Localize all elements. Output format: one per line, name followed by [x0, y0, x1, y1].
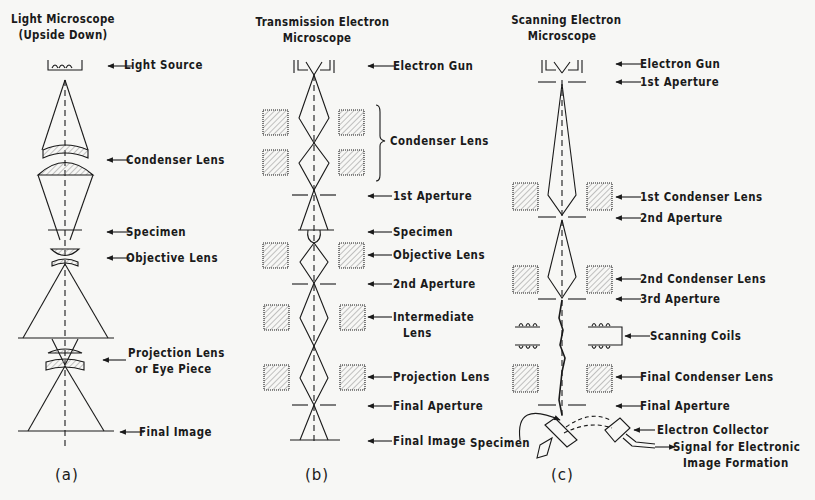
subtitle-upside-down: (Upside Down): [10, 28, 117, 42]
label-objective-lens-b: Objective Lens: [393, 248, 485, 262]
label-specimen-b: Specimen: [393, 225, 453, 239]
sem-drawing: [513, 60, 655, 458]
title-light-microscope: Light Microscope: [10, 12, 117, 26]
label-2nd-aperture-b: 2nd Aperture: [393, 277, 476, 291]
label-1st-aperture-c: 1st Aperture: [640, 75, 719, 89]
label-objective-lens-a: Objective Lens: [126, 251, 218, 265]
label-electron-gun-c: Electron Gun: [640, 57, 720, 71]
label-eye-piece: or Eye Piece: [135, 362, 212, 376]
label-specimen-c: Specimen: [470, 436, 530, 450]
label-final-aperture-c: Final Aperture: [640, 399, 730, 413]
label-1st-condenser-lens: 1st Condenser Lens: [640, 190, 763, 204]
label-final-image-b: Final Image: [393, 434, 466, 448]
label-electron-collector: Electron Collector: [657, 423, 769, 437]
caption-a: (a): [55, 466, 79, 484]
label-1st-aperture-b: 1st Aperture: [393, 189, 472, 203]
title-tem: Transmission Electron: [256, 15, 379, 29]
title-tem-line2: Microscope: [256, 31, 379, 45]
label-signal-electronic: Signal for Electronic: [673, 440, 800, 454]
label-image-formation: Image Formation: [683, 456, 789, 470]
label-2nd-aperture-c: 2nd Aperture: [640, 211, 723, 225]
label-projection-lens-a: Projection Lens: [128, 346, 225, 360]
label-light-source: Light Source: [124, 58, 203, 72]
label-final-condenser-lens: Final Condenser Lens: [640, 370, 774, 384]
label-final-aperture-b: Final Aperture: [393, 399, 483, 413]
microscope-comparison-diagram: Light Microscope (Upside Down) Transmiss…: [0, 0, 815, 500]
label-scanning-coils: Scanning Coils: [650, 329, 741, 343]
label-electron-gun-b: Electron Gun: [393, 59, 473, 73]
label-condenser-lens-b: Condenser Lens: [390, 134, 489, 148]
label-intermediate-lens: Intermediate: [393, 310, 474, 324]
label-specimen-a: Specimen: [126, 225, 186, 239]
label-2nd-condenser-lens: 2nd Condenser Lens: [640, 272, 766, 286]
title-sem: Scanning Electron: [511, 13, 613, 27]
caption-b: (b): [305, 466, 329, 484]
label-intermediate-lens-line2: Lens: [403, 326, 432, 340]
title-sem-line2: Microscope: [511, 29, 613, 43]
label-condenser-lens-a: Condenser Lens: [126, 153, 225, 167]
label-projection-lens-b: Projection Lens: [393, 370, 490, 384]
light-microscope-drawing: [18, 60, 114, 450]
tem-drawing: [263, 60, 385, 445]
caption-c: (c): [551, 466, 574, 484]
label-final-image-a: Final Image: [139, 425, 212, 439]
label-3rd-aperture: 3rd Aperture: [640, 292, 720, 306]
